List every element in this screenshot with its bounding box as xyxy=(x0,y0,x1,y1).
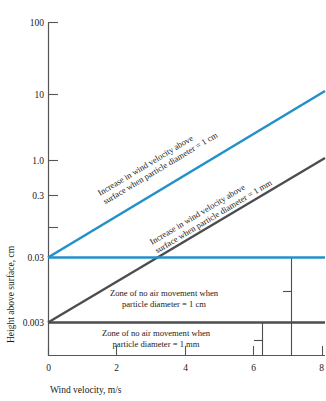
annotation-increase-1mm: Increase in wind velocity above surface … xyxy=(148,169,274,256)
y-tick-label-1: 1.0 xyxy=(32,156,44,166)
chart-container: 100 10 1.0 0.3 0.03 0.003 0 2 4 6 8 Wind… xyxy=(0,0,326,401)
annotation-increase-1cm: Increase in wind velocity above surface … xyxy=(96,121,220,206)
annotation-zone-1mm-line1: Zone of no air movement when xyxy=(102,328,211,338)
y-tick-label-100: 100 xyxy=(30,18,45,28)
y-tick-label-0.003: 0.003 xyxy=(23,318,45,328)
annotation-zone-1mm: Zone of no air movement when particle di… xyxy=(102,328,211,349)
y-tick-label-10: 10 xyxy=(35,90,45,100)
x-axis-title: Wind velocity, m/s xyxy=(50,385,122,395)
x-tick-label-6: 6 xyxy=(251,363,256,373)
x-tick-label-8: 8 xyxy=(319,363,324,373)
chart-svg: 100 10 1.0 0.3 0.03 0.003 0 2 4 6 8 Wind… xyxy=(0,0,326,401)
y-tick-label-0.03: 0.03 xyxy=(27,253,44,263)
annotation-zone-1mm-line2: particle diameter = 1 mm xyxy=(113,339,200,349)
annotation-zone-1cm-line1: Zone of no air movement when xyxy=(110,288,219,298)
x-tick-label-0: 0 xyxy=(46,363,51,373)
annotation-increase-1cm-line1: Increase in wind velocity above xyxy=(96,133,195,198)
y-axis-title: Height above surface, cm xyxy=(6,245,16,343)
x-tick-label-4: 4 xyxy=(183,363,188,373)
y-tick-label-0.3: 0.3 xyxy=(32,191,44,201)
annotation-zone-1cm-line2: particle diameter = 1 cm xyxy=(122,299,206,309)
x-tick-label-2: 2 xyxy=(114,363,119,373)
annotation-increase-1cm-line2: surface when particle diameter = 1 cm xyxy=(101,130,219,207)
bracket-group xyxy=(254,258,292,356)
annotation-zone-1cm: Zone of no air movement when particle di… xyxy=(110,288,219,309)
annotation-increase-1mm-line2: surface when particle diameter = 1 mm xyxy=(153,177,274,255)
